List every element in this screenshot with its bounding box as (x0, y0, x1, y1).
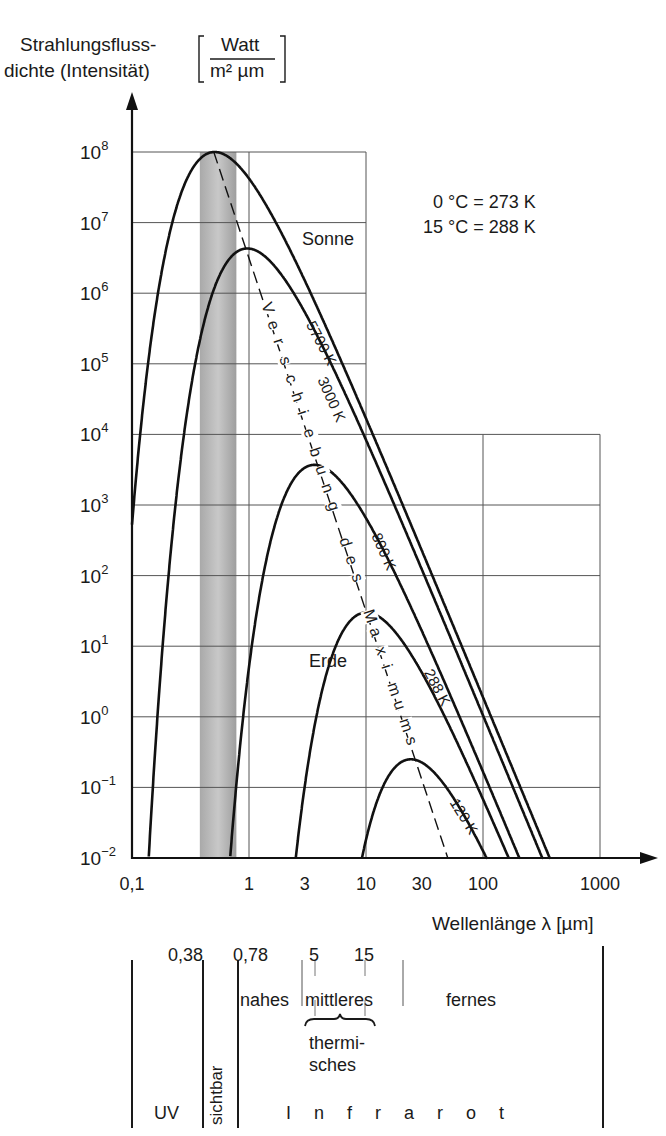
y-tick-label: 106 (80, 279, 108, 304)
x-axis-arrow-icon (640, 852, 658, 864)
x-tick-label: 1000 (580, 874, 620, 894)
boundary-15: 15 (354, 945, 374, 966)
note-15c: 15 °C = 288 K (423, 217, 536, 238)
band-mittleres: mittleres (305, 990, 373, 1011)
band-uv: UV (154, 1103, 179, 1124)
band-thermisches-line1: thermi- (309, 1033, 365, 1054)
x-tick-label: 1 (244, 874, 254, 894)
band-sichtbar: sichtbar (207, 1065, 227, 1125)
y-tick-label: 105 (80, 350, 108, 375)
boundary-5: 5 (309, 945, 319, 966)
y-tick-label: 101 (80, 632, 108, 657)
label-sonne: Sonne (302, 229, 354, 250)
y-tick-labels: 10810710610510410310210110010−110−2 (80, 138, 116, 869)
band-infrarot: I n f r a r o t (286, 1103, 508, 1124)
x-tick-label: 3 (300, 874, 310, 894)
label-erde: Erde (309, 651, 347, 672)
y-tick-label: 10−1 (80, 773, 116, 798)
x-tick-label: 30 (412, 874, 432, 894)
y-tick-label: 10−2 (80, 844, 116, 869)
y-tick-label: 100 (80, 703, 108, 728)
y-tick-label: 104 (80, 420, 108, 445)
x-tick-labels: 0,11310301001000 (119, 874, 620, 894)
x-tick-label: 100 (468, 874, 498, 894)
band-fernes: fernes (446, 990, 496, 1011)
x-tick-label: 0,1 (119, 874, 144, 894)
x-tick-label: 10 (356, 874, 376, 894)
x-axis-label: Wellenlänge λ [µm] (432, 913, 594, 935)
note-0c: 0 °C = 273 K (433, 192, 536, 213)
boundary-038: 0,38 (168, 945, 203, 966)
band-nahes: nahes (240, 990, 289, 1011)
band-thermisches-line2: sches (309, 1055, 356, 1076)
y-tick-label: 107 (80, 209, 108, 234)
y-tick-label: 108 (80, 138, 108, 163)
y-tick-label: 102 (80, 562, 108, 587)
curve-800k (230, 465, 519, 858)
y-tick-label: 103 (80, 491, 108, 516)
y-axis-arrow-icon (126, 92, 138, 110)
boundary-078: 0,78 (233, 945, 268, 966)
